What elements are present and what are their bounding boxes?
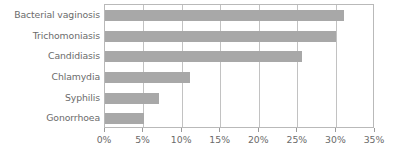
category-label: Trichomoniasis <box>0 30 100 41</box>
axis-tick <box>142 128 143 132</box>
bar <box>105 72 190 83</box>
axis-tick <box>374 128 375 132</box>
gridline <box>143 5 144 127</box>
category-label: Chlamydia <box>0 71 100 82</box>
axis-tick-label: 20% <box>238 134 278 145</box>
axis-tick <box>104 128 105 132</box>
axis-tick <box>219 128 220 132</box>
gridline <box>297 5 298 127</box>
axis-tick-label: 15% <box>200 134 240 145</box>
bar-chart: Bacterial vaginosisTrichomoniasisCandidi… <box>0 0 403 157</box>
axis-tick-label: 10% <box>161 134 201 145</box>
axis-tick-label: 5% <box>123 134 163 145</box>
bar <box>105 113 144 124</box>
category-axis: Bacterial vaginosisTrichomoniasisCandidi… <box>0 4 100 128</box>
axis-tick-label: 25% <box>277 134 317 145</box>
bar <box>105 31 336 42</box>
axis-tick-label: 30% <box>315 134 355 145</box>
gridline <box>220 5 221 127</box>
bar <box>105 10 344 21</box>
gridline <box>336 5 337 127</box>
gridline <box>182 5 183 127</box>
bar <box>105 93 159 104</box>
gridline <box>259 5 260 127</box>
bar <box>105 51 302 62</box>
plot-area <box>104 4 374 128</box>
axis-tick <box>258 128 259 132</box>
axis-tick <box>181 128 182 132</box>
category-label: Syphilis <box>0 92 100 103</box>
axis-tick <box>296 128 297 132</box>
category-label: Bacterial vaginosis <box>0 9 100 20</box>
category-label: Gonorrhoea <box>0 112 100 123</box>
axis-tick-label: 35% <box>354 134 394 145</box>
value-axis: 0%5%10%15%20%25%30%35% <box>104 128 374 157</box>
axis-tick <box>335 128 336 132</box>
category-label: Candidiasis <box>0 50 100 61</box>
axis-tick-label: 0% <box>84 134 124 145</box>
